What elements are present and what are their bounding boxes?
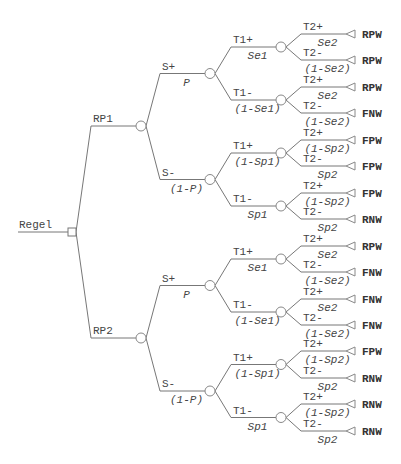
outcome-label: RNW (362, 373, 382, 385)
outcome-label: FPW (362, 346, 382, 358)
branch-label: T1+ (233, 352, 253, 364)
outcome-label: FNW (362, 294, 382, 306)
branch-label: T1+ (233, 34, 253, 46)
probability-label: Se1 (248, 262, 268, 274)
branch-edge (76, 126, 136, 232)
branch-edge (146, 74, 205, 127)
outcome-label: RNW (362, 214, 382, 226)
terminal-node-triangle-icon[interactable] (346, 30, 355, 38)
branch-label: T2- (303, 100, 323, 112)
outcome-label: RNW (362, 399, 382, 411)
probability-label: (1-P) (170, 394, 203, 406)
branch-label: T2+ (303, 286, 323, 298)
root-label: Regel (19, 219, 52, 231)
branch-label: T1+ (233, 140, 253, 152)
outcome-label: FNW (362, 267, 382, 279)
terminal-node-triangle-icon[interactable] (346, 215, 355, 223)
terminal-node-triangle-icon[interactable] (346, 427, 355, 435)
branch-label: T2+ (303, 338, 323, 350)
outcome-label: FPW (362, 188, 382, 200)
branch-label: T2+ (303, 74, 323, 86)
outcome-label: FNW (362, 108, 382, 120)
branch-label: T1- (233, 405, 253, 417)
chance-node-circle-icon[interactable] (276, 413, 286, 423)
branch-label: T2- (303, 153, 323, 165)
outcome-label: RPW (362, 241, 382, 253)
branch-label: S- (162, 167, 175, 179)
probability-label: Sp1 (248, 421, 268, 433)
branch-label: T2- (303, 312, 323, 324)
chance-node-circle-icon[interactable] (276, 254, 286, 264)
branch-label: T2+ (303, 21, 323, 33)
branch-label: RP1 (93, 113, 113, 125)
probability-label: Se1 (248, 50, 268, 62)
outcome-label: RPW (362, 82, 382, 94)
outcome-label: RNW (362, 426, 382, 438)
branch-edge (146, 286, 205, 339)
branch-label: S+ (162, 61, 175, 73)
branch-label: T2+ (303, 127, 323, 139)
probability-label: P (183, 77, 190, 89)
branch-label: T2- (303, 365, 323, 377)
outcome-label: FPW (362, 161, 382, 173)
branch-label: T1- (233, 193, 253, 205)
branch-label: T2- (303, 47, 323, 59)
branch-label: S+ (162, 273, 175, 285)
chance-node-circle-icon[interactable] (136, 333, 146, 343)
terminal-node-triangle-icon[interactable] (346, 83, 355, 91)
chance-node-circle-icon[interactable] (136, 121, 146, 131)
branch-label: T1- (233, 299, 253, 311)
outcome-label: RPW (362, 29, 382, 41)
chance-node-circle-icon[interactable] (276, 42, 286, 52)
chance-node-circle-icon[interactable] (205, 69, 215, 79)
branch-label: RP2 (93, 325, 113, 337)
chance-node-circle-icon[interactable] (205, 386, 215, 396)
decision-tree: RegelRP1S+PT1+Se1T2+Se2RPWT2-(1-Se2)RPWT… (0, 0, 401, 464)
terminal-node-triangle-icon[interactable] (346, 162, 355, 170)
tree-edges (18, 34, 346, 431)
branch-label: T2- (303, 259, 323, 271)
branch-label: T2+ (303, 180, 323, 192)
branch-edge (76, 232, 136, 338)
probability-label: Sp1 (248, 209, 268, 221)
branch-label: T1+ (233, 246, 253, 258)
decision-node-square-icon[interactable] (68, 228, 76, 236)
probability-label: Sp2 (318, 434, 338, 446)
branch-label: T2+ (303, 233, 323, 245)
outcome-label: FNW (362, 320, 382, 332)
branch-label: T1- (233, 87, 253, 99)
terminal-node-triangle-icon[interactable] (346, 295, 355, 303)
terminal-node-triangle-icon[interactable] (346, 242, 355, 250)
branch-label: S- (162, 378, 175, 390)
branch-edge (146, 338, 205, 391)
outcome-label: FPW (362, 135, 382, 147)
branch-label: T2- (303, 206, 323, 218)
probability-label: (1-P) (170, 183, 203, 195)
chance-node-circle-icon[interactable] (205, 281, 215, 291)
probability-label: (1-Sp1) (234, 156, 280, 168)
terminal-node-triangle-icon[interactable] (346, 374, 355, 382)
probability-label: (1-Se1) (234, 315, 280, 327)
branch-edge (146, 126, 205, 180)
branch-label: T2+ (303, 391, 323, 403)
probability-label: (1-Se1) (234, 103, 280, 115)
probability-label: P (183, 289, 190, 301)
outcome-label: RPW (362, 55, 382, 67)
probability-label: (1-Sp1) (234, 368, 280, 380)
chance-node-circle-icon[interactable] (205, 175, 215, 185)
chance-node-circle-icon[interactable] (276, 201, 286, 211)
branch-label: T2- (303, 418, 323, 430)
